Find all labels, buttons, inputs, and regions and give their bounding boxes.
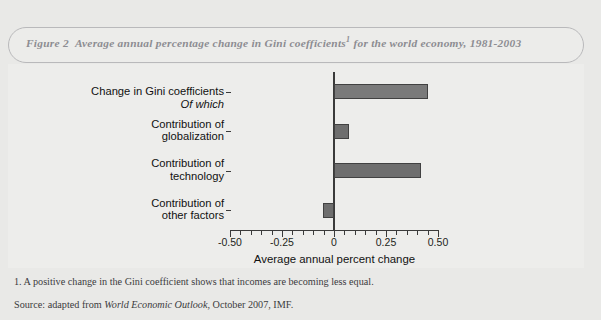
bar-2 [334,163,421,178]
category-label-1: Contribution ofglobalization [14,118,224,143]
category-label-3: Contribution ofother factors [14,197,224,222]
category-tick-3 [226,210,231,211]
figure-footnote: 1. A positive change in the Gini coeffic… [14,276,374,287]
x-tick-label-2: 0 [331,236,337,248]
x-tick-minor [292,231,293,235]
category-label-line2: technology [170,170,224,182]
figure-title-main: Average annual percentage change in Gini… [75,37,346,49]
category-tick-1 [226,131,231,132]
category-label-0: Change in Gini coefficients [14,85,224,98]
x-tick-minor [376,231,377,235]
x-tick-label-1: -0.25 [270,236,294,248]
category-tick-2 [226,171,231,172]
category-tick-0 [226,92,231,93]
x-tick-minor [313,231,314,235]
x-tick-minor [417,231,418,235]
bar-0 [334,84,428,99]
x-tick-minor [428,231,429,235]
category-label-line2: other factors [162,209,224,221]
x-tick-minor [303,231,304,235]
figure-source: Source: adapted from World Economic Outl… [14,299,293,310]
x-tick-minor [396,231,397,235]
plot-area [230,72,438,230]
x-tick-label-4: 0.50 [428,236,448,248]
figure-title: Figure 2 Average annual percentage chang… [26,35,521,49]
figure-title-tail: for the world economy, 1981-2003 [353,37,521,49]
x-axis-title: Average annual percent change [230,253,439,265]
x-tick-minor [240,231,241,235]
category-label-line1: Contribution of [151,118,224,130]
figure-number: Figure 2 [26,37,69,49]
x-tick-label-3: 0.25 [376,236,396,248]
category-label-line2: globalization [162,130,224,142]
x-tick-minor [324,231,325,235]
bar-1 [334,124,349,139]
x-tick-minor [355,231,356,235]
x-tick-minor [272,231,273,235]
x-tick-label-0: -0.50 [218,236,242,248]
x-tick-minor [261,231,262,235]
x-tick-minor [251,231,252,235]
category-label-2: Contribution oftechnology [14,157,224,182]
bar-3 [323,203,334,218]
category-label-line1: Contribution of [151,197,224,209]
x-tick-minor [407,231,408,235]
source-prefix: Source: adapted from [14,299,104,310]
source-suffix: , October 2007, IMF. [207,299,293,310]
of-which-subheading: Of which [14,98,224,111]
x-tick-minor [344,231,345,235]
x-tick-minor [365,231,366,235]
figure-title-footnote-marker: 1 [346,35,350,44]
category-label-line1: Contribution of [151,157,224,169]
category-label-line1: Change in Gini coefficients [91,85,224,97]
source-publication: World Economic Outlook [104,299,207,310]
